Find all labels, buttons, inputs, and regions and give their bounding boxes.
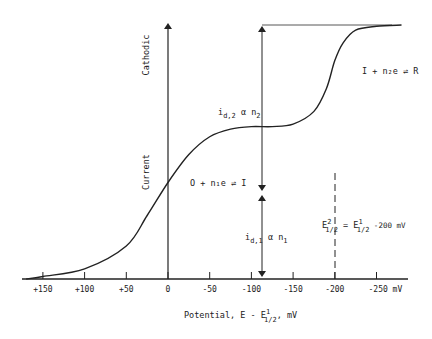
x-axis-label: Potential, E - E11/2, mV — [184, 308, 297, 324]
x-tick-label: +100 — [75, 285, 94, 294]
x-tick-label: -50 — [202, 285, 217, 294]
id2-label: id,2 α n2 — [218, 107, 260, 120]
x-tick-label: +150 — [33, 285, 52, 294]
x-tick-label: -150 — [283, 285, 302, 294]
reaction-2-label: I + n₂e ⇌ R — [362, 66, 419, 76]
current-curve — [26, 25, 401, 279]
reaction-1-label: O + n₁e ⇌ I — [190, 178, 246, 188]
polarogram-chart: +150+100+500-50-100-150-200-250 mV Catho… — [0, 0, 432, 339]
x-tick-label: -250 mV — [369, 285, 403, 294]
y-label-top: Cathodic — [141, 35, 151, 76]
x-tick-label: -200 — [325, 285, 344, 294]
x-tick-label: 0 — [166, 285, 171, 294]
y-label-bottom: Current — [141, 154, 151, 190]
x-tick-label: +50 — [119, 285, 134, 294]
id1-label: id,1 α n1 — [245, 232, 287, 245]
x-ticks: +150+100+500-50-100-150-200-250 mV — [33, 272, 402, 294]
x-tick-label: -100 — [242, 285, 261, 294]
